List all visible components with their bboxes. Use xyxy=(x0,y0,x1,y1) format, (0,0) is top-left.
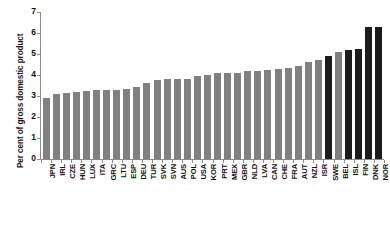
x-tick-label: LTU xyxy=(120,164,128,228)
bar xyxy=(73,92,80,159)
y-tick-label: 0 xyxy=(31,153,36,164)
x-tick-mark xyxy=(263,160,264,163)
x-tick-label: GBR xyxy=(241,164,249,228)
bar xyxy=(204,75,211,159)
bar-series xyxy=(41,12,384,159)
bar xyxy=(224,73,231,159)
x-tick-label: BEL xyxy=(342,164,350,228)
y-tick-label: 5 xyxy=(31,48,36,59)
x-axis-labels: JPNIRLCZEHUNLUXITAGRCLTUESPDEUTURSVKSVNA… xyxy=(41,164,384,240)
bar xyxy=(285,68,292,159)
x-tick-mark xyxy=(71,160,72,163)
bar xyxy=(375,27,382,159)
x-tick-label: GRC xyxy=(110,164,118,228)
bar xyxy=(214,73,221,159)
bar xyxy=(174,79,181,159)
x-tick-mark xyxy=(283,160,284,163)
x-tick-mark xyxy=(91,160,92,163)
x-tick-label: NLD xyxy=(251,164,259,228)
x-tick-label: HUN xyxy=(79,164,87,228)
x-tick-label: AUT xyxy=(301,164,309,228)
x-tick-label: CHE xyxy=(281,164,289,228)
x-tick-label: MEX xyxy=(231,164,239,228)
x-tick-label: PRT xyxy=(221,164,229,228)
x-tick-mark xyxy=(293,160,294,163)
x-tick-mark xyxy=(303,160,304,163)
x-tick-mark xyxy=(192,160,193,163)
bar xyxy=(335,52,342,159)
bar xyxy=(53,94,60,159)
x-tick-mark xyxy=(142,160,143,163)
y-tick-label: 7 xyxy=(31,6,36,17)
x-tick-mark xyxy=(253,160,254,163)
bar xyxy=(184,79,191,159)
bar xyxy=(194,76,201,159)
x-tick-label: ISR xyxy=(321,164,329,228)
x-tick-mark xyxy=(202,160,203,163)
x-tick-mark xyxy=(61,160,62,163)
bar xyxy=(275,69,282,159)
bar xyxy=(133,87,140,159)
x-tick-label: TUR xyxy=(150,164,158,228)
y-tick-label: 6 xyxy=(31,27,36,38)
y-tick-label: 3 xyxy=(31,90,36,101)
bar xyxy=(164,79,171,159)
x-tick-label: LVA xyxy=(261,164,269,228)
bar xyxy=(254,71,261,159)
x-tick-mark xyxy=(122,160,123,163)
x-tick-mark xyxy=(152,160,153,163)
x-tick-label: CZE xyxy=(69,164,77,228)
x-tick-label: ISL xyxy=(352,164,360,228)
x-tick-label: USA xyxy=(200,164,208,228)
y-tick-label: 2 xyxy=(31,111,36,122)
bar xyxy=(143,83,150,159)
x-tick-label: NOR xyxy=(382,164,390,228)
bar xyxy=(244,71,251,159)
x-tick-label: SVK xyxy=(160,164,168,228)
x-tick-label: IRL xyxy=(59,164,67,228)
bar xyxy=(93,90,100,159)
x-tick-mark xyxy=(354,160,355,163)
x-tick-mark xyxy=(51,160,52,163)
x-tick-mark xyxy=(364,160,365,163)
x-tick-mark xyxy=(182,160,183,163)
bar xyxy=(325,56,332,159)
bar xyxy=(264,70,271,159)
x-tick-mark xyxy=(233,160,234,163)
x-tick-label: AUS xyxy=(180,164,188,228)
x-tick-label: CAN xyxy=(271,164,279,228)
x-tick-mark xyxy=(273,160,274,163)
bar xyxy=(355,49,362,159)
bar xyxy=(345,50,352,159)
x-tick-mark xyxy=(344,160,345,163)
x-tick-label: KOR xyxy=(210,164,218,228)
x-tick-label: ESP xyxy=(130,164,138,228)
y-tick-label: 4 xyxy=(31,69,36,80)
x-tick-mark xyxy=(81,160,82,163)
x-tick-mark xyxy=(102,160,103,163)
x-tick-mark xyxy=(243,160,244,163)
x-tick-mark xyxy=(323,160,324,163)
x-tick-label: FRA xyxy=(291,164,299,228)
x-tick-mark xyxy=(112,160,113,163)
y-axis-title: Per cent of gross domestic product xyxy=(14,0,28,168)
x-tick-label: SWE xyxy=(332,164,340,228)
bar xyxy=(123,89,130,159)
bar xyxy=(113,90,120,159)
x-tick-label: JPN xyxy=(49,164,57,228)
x-tick-mark xyxy=(41,160,42,163)
plot-area: 01234567 xyxy=(40,12,384,160)
x-tick-label: POL xyxy=(190,164,198,228)
x-tick-mark xyxy=(223,160,224,163)
x-tick-mark xyxy=(162,160,163,163)
x-tick-mark xyxy=(334,160,335,163)
x-tick-mark xyxy=(313,160,314,163)
x-tick-mark xyxy=(132,160,133,163)
x-tick-label: DNK xyxy=(372,164,380,228)
x-tick-label: LUX xyxy=(89,164,97,228)
bar xyxy=(83,91,90,159)
bar xyxy=(63,93,70,159)
x-tick-mark xyxy=(384,160,385,163)
x-tick-label: SVN xyxy=(170,164,178,228)
